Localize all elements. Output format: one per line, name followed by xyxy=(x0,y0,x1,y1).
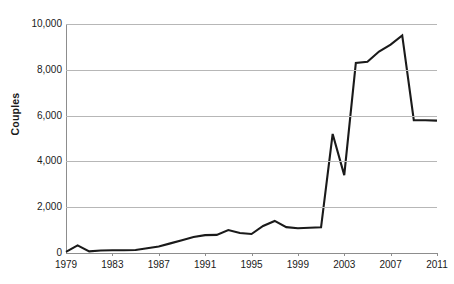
x-tick-label-2011: 2011 xyxy=(415,259,454,271)
x-tick-mark-2003 xyxy=(344,253,345,256)
x-tick-label-1979: 1979 xyxy=(44,259,88,271)
plot-area xyxy=(66,24,437,253)
x-tick-label-2007: 2007 xyxy=(369,259,413,271)
x-tick-label-1987: 1987 xyxy=(137,259,181,271)
y-tick-label-6000: 6,000 xyxy=(16,111,62,121)
gridline-2000 xyxy=(66,207,437,208)
y-axis-tick-labels: 10,0008,0006,0004,0002,0000 xyxy=(12,0,62,284)
x-tick-mark-1999 xyxy=(298,253,299,256)
x-tick-mark-1995 xyxy=(252,253,253,256)
x-axis-tick-labels: 197919831987199119951999200320072011 xyxy=(0,259,454,275)
gridline-10000 xyxy=(66,24,437,25)
x-tick-label-1983: 1983 xyxy=(90,259,134,271)
gridline-4000 xyxy=(66,161,437,162)
x-tick-mark-2011 xyxy=(437,253,438,256)
x-tick-mark-2007 xyxy=(391,253,392,256)
x-tick-mark-1991 xyxy=(205,253,206,256)
y-tick-label-0: 0 xyxy=(16,248,62,258)
line-chart-figure: Couples 10,0008,0006,0004,0002,0000 1979… xyxy=(0,0,454,284)
data-series-line xyxy=(66,24,437,253)
x-tick-mark-1987 xyxy=(159,253,160,256)
y-tick-label-10000: 10,000 xyxy=(16,19,62,29)
gridline-6000 xyxy=(66,116,437,117)
x-tick-label-1991: 1991 xyxy=(183,259,227,271)
gridline-8000 xyxy=(66,70,437,71)
y-tick-label-8000: 8,000 xyxy=(16,65,62,75)
x-tick-label-1995: 1995 xyxy=(230,259,274,271)
x-tick-label-2003: 2003 xyxy=(322,259,366,271)
x-tick-label-1999: 1999 xyxy=(276,259,320,271)
y-tick-label-4000: 4,000 xyxy=(16,156,62,166)
y-tick-label-2000: 2,000 xyxy=(16,202,62,212)
x-tick-mark-1983 xyxy=(112,253,113,256)
